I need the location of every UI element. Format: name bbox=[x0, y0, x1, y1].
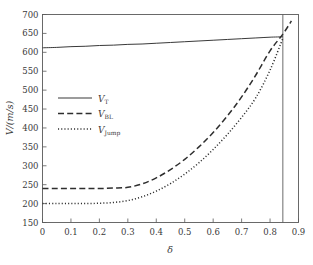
y-tick-label: 450 bbox=[22, 104, 38, 114]
legend-label-v-t: VT bbox=[98, 94, 109, 105]
series-v-t bbox=[43, 37, 283, 48]
y-tick-label: 350 bbox=[22, 142, 38, 152]
y-tick-label: 150 bbox=[22, 218, 38, 228]
x-tick-label: 0.2 bbox=[93, 227, 107, 237]
x-tick-label: 0.6 bbox=[206, 227, 220, 237]
legend-label-v-jump: VJump bbox=[98, 125, 120, 137]
x-tick-label: 0.3 bbox=[121, 227, 135, 237]
x-axis-tick-labels: 00.10.20.30.40.50.60.70.80.9 bbox=[40, 227, 305, 237]
x-tick-label: 0.1 bbox=[64, 227, 78, 237]
y-tick-label: 300 bbox=[22, 161, 38, 171]
y-tick-label: 600 bbox=[22, 47, 38, 57]
y-tick-label: 200 bbox=[22, 199, 38, 209]
y-tick-label: 500 bbox=[22, 85, 38, 95]
y-tick-label: 700 bbox=[22, 10, 38, 20]
x-tick-label: 0.9 bbox=[292, 227, 306, 237]
y-tick-label: 250 bbox=[22, 180, 38, 190]
x-axis-title: δ bbox=[167, 244, 173, 255]
y-tick-label: 400 bbox=[22, 123, 38, 133]
y-axis-title: V/(m/s) bbox=[4, 100, 15, 135]
series-layer bbox=[43, 21, 292, 204]
chart-figure: 00.10.20.30.40.50.60.70.80.9 15020025030… bbox=[0, 0, 313, 265]
y-tick-label: 550 bbox=[22, 66, 38, 76]
plot-frame bbox=[43, 15, 299, 223]
x-tick-label: 0.4 bbox=[150, 227, 164, 237]
series-v-jump bbox=[43, 38, 283, 203]
chart-legend: VTVBLVJump bbox=[58, 94, 120, 137]
y-axis-title-group: V/(m/s) bbox=[4, 100, 15, 135]
x-tick-label: 0.5 bbox=[178, 227, 192, 237]
legend-label-v-bl: VBL bbox=[98, 109, 113, 120]
y-axis-tick-labels: 150200250300350400450500550600650700 bbox=[22, 10, 38, 228]
x-tick-label: 0.7 bbox=[235, 227, 249, 237]
x-axis-ticks bbox=[43, 219, 299, 223]
y-axis-ticks bbox=[43, 15, 47, 223]
y-tick-label: 650 bbox=[22, 28, 38, 38]
x-tick-label: 0 bbox=[40, 227, 45, 237]
x-tick-label: 0.8 bbox=[263, 227, 277, 237]
chart-canvas: 00.10.20.30.40.50.60.70.80.9 15020025030… bbox=[0, 0, 313, 265]
